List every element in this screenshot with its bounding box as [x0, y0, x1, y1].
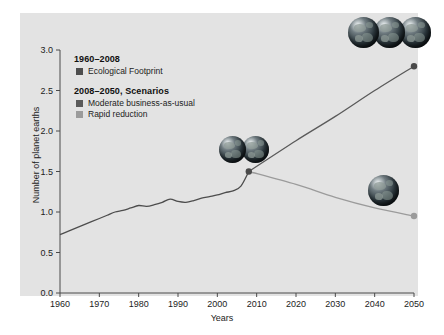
- globe-landmass: [225, 152, 232, 158]
- y-tick-label: 0.0: [40, 288, 53, 298]
- x-tick-label: 2030: [325, 299, 345, 309]
- globe-landmass: [388, 33, 399, 42]
- legend-heading-historical: 1960–2008: [74, 54, 224, 64]
- globe-landmass: [231, 150, 240, 158]
- earth-globe-icon: [368, 175, 399, 206]
- chart-legend: 1960–2008 Ecological Footprint 2008–2050…: [74, 54, 224, 120]
- globe-landmass: [362, 33, 373, 42]
- data-point-branch-point: [246, 168, 252, 174]
- globe-landmass: [380, 24, 392, 32]
- legend-label-moderate-business-as-usual: Moderate business-as-usual: [88, 98, 195, 108]
- globe-landmass: [248, 152, 255, 158]
- y-tick-label: 2.5: [40, 86, 53, 96]
- globe-landmass: [258, 140, 264, 145]
- globe-landmass: [254, 150, 263, 158]
- y-tick-label: 1.5: [40, 167, 53, 177]
- globe-landmass: [418, 22, 425, 28]
- globe-landmass: [366, 22, 373, 28]
- x-tick-label: 1990: [168, 299, 188, 309]
- x-tick-label: 1970: [89, 299, 109, 309]
- y-tick-label: 3.0: [40, 45, 53, 55]
- plot-canvas: 0.00.51.01.52.02.53.01960197019801990200…: [0, 0, 444, 335]
- globe-landmass: [374, 182, 386, 190]
- legend-swatch-ecological-footprint: [76, 68, 83, 75]
- ecological-footprint-chart: 0.00.51.01.52.02.53.01960197019801990200…: [0, 0, 444, 335]
- globe-landmass: [407, 35, 415, 42]
- x-axis-title: Years: [0, 313, 444, 323]
- one-earth-globe: [368, 175, 399, 206]
- x-tick-label: 2020: [286, 299, 306, 309]
- y-tick-label: 2.0: [40, 126, 53, 136]
- legend-swatch-moderate-business-as-usual: [76, 100, 83, 107]
- globe-landmass: [406, 24, 418, 32]
- legend-spacer: [74, 77, 224, 86]
- globe-landmass: [381, 35, 389, 42]
- series-line-moderate-business-as-usual: [249, 66, 414, 171]
- globe-landmass: [414, 33, 425, 42]
- three-earths-globes: [348, 17, 431, 48]
- series-line-ecological-footprint: [60, 172, 249, 235]
- legend-heading-scenarios: 2008–2050, Scenarios: [74, 86, 224, 96]
- data-point-rapid-reduction-endpoint: [411, 213, 417, 219]
- y-tick-label: 0.5: [40, 248, 53, 258]
- earth-globe-icon: [219, 136, 246, 163]
- legend-item-ecological-footprint: Ecological Footprint: [76, 66, 224, 76]
- y-axis-title: Number of planet earths: [31, 75, 41, 235]
- legend-swatch-rapid-reduction: [76, 111, 83, 118]
- globe-landmass: [354, 24, 366, 32]
- one-and-half-earths-globes: [219, 136, 269, 163]
- globe-landmass: [224, 142, 235, 149]
- earth-globe-icon: [348, 17, 379, 48]
- x-tick-label: 1960: [50, 299, 70, 309]
- x-tick-label: 2040: [365, 299, 385, 309]
- globe-landmass: [247, 142, 258, 149]
- legend-item-moderate-business-as-usual: Moderate business-as-usual: [76, 98, 224, 108]
- x-tick-label: 2010: [247, 299, 267, 309]
- x-tick-label: 1980: [129, 299, 149, 309]
- x-tick-label: 2050: [404, 299, 424, 309]
- globe-landmass: [386, 180, 393, 186]
- earth-globe-icon: [242, 136, 269, 163]
- data-point-business-as-usual-endpoint: [411, 63, 417, 69]
- legend-item-rapid-reduction: Rapid reduction: [76, 109, 224, 119]
- globe-landmass: [375, 193, 383, 200]
- x-tick-label: 2000: [207, 299, 227, 309]
- globe-landmass: [382, 191, 393, 200]
- y-tick-label: 1.0: [40, 207, 53, 217]
- legend-label-rapid-reduction: Rapid reduction: [88, 109, 148, 119]
- globe-landmass: [392, 22, 399, 28]
- globe-landmass: [355, 35, 363, 42]
- legend-label-ecological-footprint: Ecological Footprint: [88, 66, 163, 76]
- globe-landmass: [235, 140, 241, 145]
